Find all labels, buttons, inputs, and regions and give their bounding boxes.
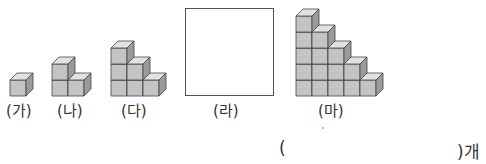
figure-ga-cubes <box>10 73 33 96</box>
answer-open-paren: ( <box>279 138 286 158</box>
cube-icon <box>68 73 91 96</box>
cube-icon <box>10 73 33 96</box>
cube-icon <box>143 73 166 96</box>
figure-ra-empty-box <box>185 8 274 96</box>
figure-label-na: (나) <box>57 99 83 120</box>
answer-unit: )개 <box>457 138 480 163</box>
figure-label-ga: (가) <box>6 99 32 120</box>
figure-ma-cubes <box>296 9 383 96</box>
answer-blank[interactable] <box>290 138 455 158</box>
cube-icon <box>360 73 383 96</box>
figure-na-cubes <box>52 57 91 96</box>
figure-da-cubes <box>111 41 166 96</box>
figure-label-da: (다) <box>121 99 147 120</box>
stray-dot <box>322 127 324 129</box>
figure-label-ra: (라) <box>213 99 239 120</box>
figure-label-ma: (마) <box>318 99 344 120</box>
